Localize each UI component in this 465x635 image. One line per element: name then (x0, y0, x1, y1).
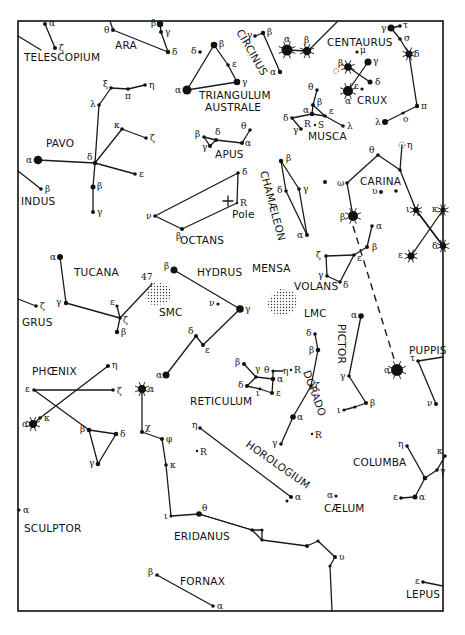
star-designation: ι (164, 511, 168, 521)
star-hyi-b: β (164, 261, 178, 274)
star-designation: ν (209, 298, 214, 308)
star-designation: δ (188, 326, 193, 336)
star-eri-3 (260, 538, 263, 541)
star-tuc-e: ε (110, 297, 119, 308)
star-col-k: κ (437, 446, 447, 458)
star-for-b: β (148, 567, 159, 577)
star-mus-g: γ (293, 125, 303, 135)
star-car-b: β (340, 208, 361, 224)
constellation-line (155, 216, 182, 229)
star-designation: δ (283, 113, 288, 123)
constellation-line (142, 432, 162, 439)
constellation-line (256, 377, 273, 379)
star-col-a: α (413, 492, 426, 502)
constellation-label-horologium: HOROLOGIUM (244, 438, 313, 491)
constellation-label-telescopium: TELESCOPIUM (23, 51, 100, 63)
constellation-label-volans: VOLANS (294, 280, 338, 292)
constellation-label-indus: INDUS (21, 195, 56, 207)
star-designation: ε (276, 388, 281, 398)
star-dor-R: R (290, 365, 301, 375)
star-designation: α (217, 601, 223, 611)
star-designation: β (148, 567, 153, 577)
star-pav-b: β (91, 181, 103, 191)
star-designation: θ (104, 25, 109, 35)
star-designation: δ (120, 429, 125, 439)
constellation-label-smc: SMC (159, 306, 183, 318)
star-vol-d: δ (338, 280, 348, 290)
star-designation: β (45, 184, 50, 194)
star-car-lone (323, 180, 327, 184)
pole-label: Pole (232, 208, 255, 220)
star-eri-2 (260, 528, 263, 531)
star-hyi-g: γ (236, 304, 250, 314)
star-car-eta: η (399, 140, 412, 150)
star-tra-a: α (175, 85, 192, 95)
constellation-line (128, 85, 145, 89)
star-scl-a: α (17, 505, 29, 515)
star-phe-d: δ (114, 429, 126, 439)
star-designation: α (156, 370, 162, 380)
constellation-label-grus: GRUS (22, 316, 53, 328)
constellation-line (403, 106, 417, 113)
star-designation: δ (277, 185, 282, 195)
star-col-b (423, 476, 428, 481)
star-designation: β (235, 357, 240, 367)
star-phe-a: α (22, 417, 40, 431)
star-cha-d: δ (277, 185, 288, 195)
star-designation: π (421, 101, 427, 111)
star-designation: λ (90, 99, 96, 109)
star-designation: ε (357, 253, 362, 263)
constellation-line (378, 155, 400, 170)
star-designation: R (315, 430, 322, 440)
star-designation: R (200, 447, 207, 457)
star-designation: ε (393, 492, 398, 502)
star-designation: α (345, 96, 351, 106)
star-designation: δ (375, 77, 380, 87)
constellation-line (166, 336, 196, 375)
constellation-line (318, 541, 335, 557)
star-designation: χ (145, 422, 151, 432)
constellation-label-tucana: TUCANA (73, 266, 119, 278)
coalsack-icon (334, 69, 339, 74)
star-designation: γ (255, 364, 260, 374)
star-ret-i: ι (256, 388, 261, 398)
constellation-label-puppis: PUPPIS (409, 344, 447, 356)
star-cha-b: β (279, 153, 291, 163)
star-designation: κ (170, 460, 176, 470)
star-designation: β (370, 398, 375, 408)
star-cru-e: ε (354, 81, 364, 91)
star-designation: ι (256, 388, 260, 398)
star-mus-R: R (304, 119, 311, 129)
star-designation: ζ (150, 133, 155, 143)
star-designation: δ (343, 280, 348, 290)
constellation-label-musca: MUSCA (308, 130, 348, 142)
star-designation: ε (398, 250, 403, 260)
star-tra-b: β (211, 39, 225, 49)
star-cen-g2: γ (381, 23, 395, 33)
star-designation: ζ (123, 315, 128, 325)
constellation-label-ara: ARA (115, 39, 137, 51)
star-cru-g: γ (365, 56, 379, 66)
star-designation: β (286, 153, 291, 163)
constellation-label-sculptor: SCULPTOR (24, 522, 81, 534)
star-cir-a: α (270, 67, 282, 77)
constellation-label-triangulum: TRIANGULUM (198, 89, 271, 101)
star-car-u: υ (372, 186, 383, 196)
star-designation: φ (166, 434, 172, 444)
constellation-label-australe: AUSTRALE (205, 101, 261, 113)
star-designation: α (297, 412, 303, 422)
constellation-line (216, 140, 242, 143)
star-car-th: θ (369, 145, 380, 157)
star-eri-i: ι (164, 511, 173, 521)
star-designation: γ (242, 77, 247, 87)
star-designation: υ (372, 186, 378, 196)
star-designation: δ (242, 167, 247, 177)
star-designation: α (284, 34, 290, 44)
star-col-eta: η (398, 439, 409, 449)
star-aps-g: γ (202, 142, 212, 152)
star-tuc-47: 47 (141, 272, 153, 282)
star-designation: γ (340, 371, 345, 381)
star-pav-e: ε (133, 169, 144, 179)
star-phe-e: ε (25, 384, 36, 394)
star-tel-a: α (43, 18, 55, 28)
